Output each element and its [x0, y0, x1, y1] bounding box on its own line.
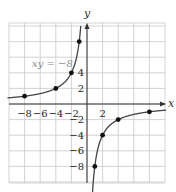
x-tick-label: −6	[33, 108, 48, 119]
data-point	[69, 70, 74, 75]
hyperbola-chart: −8−6−4−2242−2−4−6−8 xy = −8 x y	[0, 0, 176, 192]
data-point	[100, 133, 105, 138]
data-point	[77, 39, 82, 44]
data-point	[147, 109, 152, 114]
y-tick-label: −6	[69, 145, 84, 156]
x-axis-label: x	[168, 97, 175, 110]
y-tick-label: 2	[78, 83, 84, 94]
x-tick-label: −8	[17, 108, 32, 119]
x-tick-label: 2	[99, 108, 105, 119]
data-point	[92, 164, 97, 169]
y-tick-label: −2	[69, 114, 84, 125]
y-tick-label: 4	[78, 67, 84, 78]
x-tick-label: −4	[48, 108, 63, 119]
data-point	[22, 94, 27, 99]
axes	[9, 23, 166, 183]
data-point	[53, 86, 58, 91]
y-tick-label: −8	[69, 161, 84, 172]
y-axis-label: y	[83, 7, 91, 20]
equation-label: xy = −8	[32, 58, 73, 69]
y-tick-label: −4	[69, 130, 84, 141]
data-point	[116, 117, 121, 122]
